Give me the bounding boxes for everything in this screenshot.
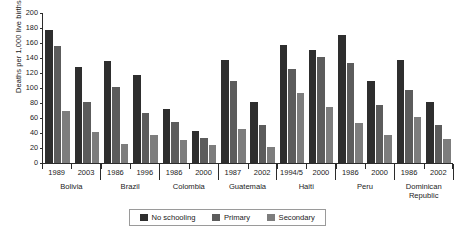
- year-text: 1986: [401, 168, 418, 177]
- y-tick-label: 180: [26, 24, 38, 31]
- y-tick-label: 120: [26, 69, 38, 76]
- country-text: Guatemala: [229, 182, 266, 191]
- country-text: Haiti: [299, 182, 314, 191]
- y-tick-label: 40: [30, 129, 38, 136]
- bar: [142, 113, 150, 163]
- bar-group: [394, 13, 423, 163]
- year-text: 2000: [313, 168, 330, 177]
- bar: [297, 93, 305, 164]
- bar-group: [43, 13, 72, 163]
- x-axis-year-label: 1986: [159, 164, 188, 181]
- x-axis-country-label: Guatemala: [218, 181, 277, 207]
- legend-swatch-icon: [212, 214, 220, 222]
- bar: [288, 69, 296, 164]
- y-tick-label: 0: [34, 159, 38, 166]
- legend-label: Secondary: [279, 214, 315, 222]
- year-text: 1986: [107, 168, 124, 177]
- bar-group: [365, 13, 394, 163]
- bar-group: [189, 13, 218, 163]
- bar: [45, 30, 53, 163]
- x-tick-mark: [365, 164, 366, 169]
- bar: [150, 135, 158, 164]
- bar: [326, 107, 334, 163]
- bar: [180, 140, 188, 163]
- bar: [75, 67, 83, 163]
- country-text: Colombia: [173, 182, 205, 191]
- bar: [230, 81, 238, 163]
- x-tick-mark: [306, 164, 307, 169]
- bar: [280, 45, 288, 164]
- bar: [347, 63, 355, 164]
- x-axis-country-label: Haiti: [277, 181, 336, 207]
- bar: [435, 125, 443, 163]
- x-axis-year-label: 1987: [218, 164, 247, 181]
- bar: [397, 60, 405, 164]
- y-axis-title: Deaths per 1,000 live births: [14, 0, 23, 109]
- year-text: 2000: [371, 168, 388, 177]
- group-separator: [159, 164, 160, 180]
- bar: [405, 90, 413, 163]
- legend-item: Secondary: [267, 214, 315, 222]
- bar: [238, 129, 246, 163]
- x-axis-year-label: 2003: [71, 164, 100, 181]
- x-tick-mark: [42, 164, 43, 169]
- x-tick-mark: [71, 164, 72, 169]
- x-tick-mark: [189, 164, 190, 169]
- bar-group: [248, 13, 277, 163]
- bar: [112, 87, 120, 163]
- bar: [414, 117, 422, 164]
- bar-group: [72, 13, 101, 163]
- group-separator: [453, 164, 454, 180]
- x-axis-year-label: 2000: [189, 164, 218, 181]
- bar: [163, 109, 171, 163]
- year-text: 1989: [48, 168, 65, 177]
- x-tick-mark: [130, 164, 131, 169]
- x-axis-year-label: 1989: [42, 164, 71, 181]
- bar: [309, 50, 317, 163]
- bar: [367, 81, 375, 163]
- group-separator: [335, 164, 336, 180]
- legend-item: No schooling: [140, 214, 195, 222]
- bar-groups: [43, 13, 453, 163]
- x-axis-country-label: DominicanRepublic: [394, 181, 453, 207]
- x-axis-year-label: 1996: [130, 164, 159, 181]
- bar: [192, 131, 200, 163]
- bar-group: [424, 13, 453, 163]
- bar: [267, 147, 275, 164]
- year-text: 1987: [224, 168, 241, 177]
- group-separator: [100, 164, 101, 180]
- bar: [62, 111, 70, 163]
- bar: [338, 35, 346, 163]
- country-text: Bolivia: [60, 182, 82, 191]
- y-tick-label: 140: [26, 54, 38, 61]
- bar-group: [131, 13, 160, 163]
- x-axis-year-label: 1986: [101, 164, 130, 181]
- country-text: Republic: [409, 191, 439, 200]
- bar: [133, 75, 141, 164]
- x-axis-year-label: 1994/5: [277, 164, 306, 181]
- bar-group: [277, 13, 306, 163]
- year-text: 2003: [78, 168, 95, 177]
- x-tick-mark: [248, 164, 249, 169]
- x-axis-year-labels: 198920031986199619862000198720021994/520…: [42, 164, 453, 181]
- chart-legend: No schoolingPrimarySecondary: [129, 209, 326, 226]
- year-text: 1986: [166, 168, 183, 177]
- bar: [384, 135, 392, 163]
- y-tick-label: 100: [26, 84, 38, 91]
- y-tick-label: 60: [30, 114, 38, 121]
- legend-swatch-icon: [267, 214, 275, 222]
- group-separator: [218, 164, 219, 180]
- bar: [83, 102, 91, 163]
- bar: [259, 125, 267, 163]
- bar: [250, 102, 258, 164]
- x-axis-country-label: Brazil: [101, 181, 160, 207]
- bar-group: [336, 13, 365, 163]
- plot-area: 020406080100120140160180200: [42, 13, 453, 163]
- x-axis-country-label: Peru: [336, 181, 395, 207]
- y-tick-label: 200: [26, 9, 38, 16]
- bar-group: [160, 13, 189, 163]
- x-axis-year-label: 1986: [394, 164, 423, 181]
- year-text: 1986: [342, 168, 359, 177]
- x-axis-year-label: 2002: [424, 164, 453, 181]
- bar: [317, 57, 325, 163]
